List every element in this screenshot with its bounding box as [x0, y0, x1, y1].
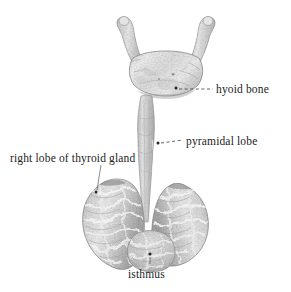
label-right-lobe-of-thyroid-gland: right lobe of thyroid gland	[10, 152, 135, 165]
isthmus-leader-dot	[148, 252, 151, 255]
right-lobe-leader-dot	[95, 191, 98, 194]
hyoid-bone-structure	[117, 17, 215, 100]
label-hyoid-bone: hyoid bone	[216, 83, 269, 96]
pyramidal-lobe-leader-line	[161, 140, 183, 143]
hyoid-bone-leader-dot	[175, 87, 178, 90]
label-isthmus: isthmus	[128, 268, 165, 281]
pyramidal-lobe-leader-dot	[157, 142, 160, 145]
anatomical-figure: hyoid bone pyramidal lobe right lobe of …	[0, 0, 291, 292]
isthmus-structure	[127, 231, 176, 272]
label-pyramidal-lobe: pyramidal lobe	[186, 135, 257, 148]
